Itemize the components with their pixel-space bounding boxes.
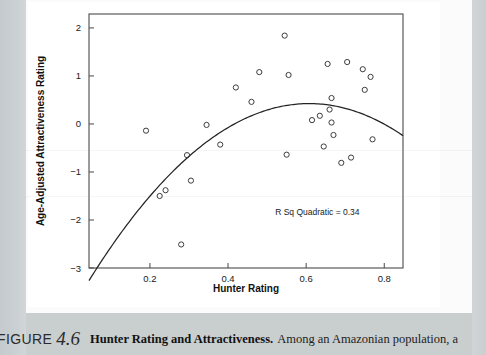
y-tick-label: 1: [76, 70, 81, 81]
x-tick-label: 0.6: [300, 273, 313, 284]
figure-page: 0.20.40.60.8 210−1−2−3 Hunter Rating Age…: [0, 0, 486, 355]
caption-body: Among an Amazonian population, a: [277, 332, 458, 347]
y-tick-label: −3: [70, 263, 81, 274]
x-tick-label: 0.2: [143, 273, 156, 284]
figure-caption: FIGURE 4.6 Hunter Rating and Attractiven…: [0, 326, 486, 352]
caption-figure-number: 4.6: [56, 328, 80, 350]
y-axis-tick-labels: 210−1−2−3: [70, 22, 81, 273]
scatter-plot: 0.20.40.60.8 210−1−2−3 Hunter Rating Age…: [0, 0, 486, 355]
caption-figure-label: FIGURE: [0, 331, 52, 347]
plot-frame: [89, 14, 403, 268]
x-tick-label: 0.8: [378, 273, 391, 284]
y-tick-label: 0: [76, 118, 81, 129]
plot-svg: 0.20.40.60.8 210−1−2−3 Hunter Rating Age…: [0, 0, 486, 355]
y-axis-title: Age-Adjusted Attractiveness Rating: [35, 56, 46, 226]
y-tick-label: −1: [70, 166, 81, 177]
x-axis-title: Hunter Rating: [213, 283, 279, 294]
y-tick-label: −2: [70, 214, 81, 225]
r-squared-annotation: R Sq Quadratic = 0.34: [275, 207, 360, 217]
caption-title: Hunter Rating and Attractiveness.: [90, 332, 273, 347]
y-tick-label: 2: [76, 22, 81, 33]
